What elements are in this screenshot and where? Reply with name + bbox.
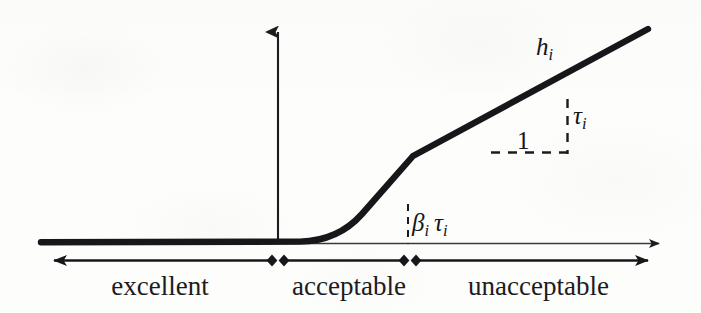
range-label-acceptable: acceptable (284, 273, 414, 300)
slope-run-label: 1 (517, 128, 530, 153)
range-label-excellent: excellent (44, 273, 276, 300)
figure-canvas: hi τi 1 βi τi excellent acceptable unacc… (0, 0, 701, 313)
slope-rise-label-base: τ (573, 102, 582, 129)
threshold-label: βi τi (412, 210, 448, 239)
range-cap-diamond-excellent-right (267, 254, 278, 266)
curve-label-h: hi (536, 34, 553, 63)
range-label-unacceptable: unacceptable (416, 273, 661, 300)
penalty-function-diagram (0, 0, 701, 313)
curve-label-h-base: h (536, 33, 549, 60)
curve-label-h-subscript: i (549, 45, 554, 64)
slope-rise-label-subscript: i (582, 114, 587, 133)
threshold-label-tau: τ (434, 209, 443, 236)
range-cap-diamond-acceptable-left (279, 254, 290, 266)
threshold-label-tau-subscript: i (443, 221, 448, 240)
slope-rise-label: τi (573, 103, 587, 132)
penalty-curve (41, 29, 648, 242)
threshold-label-beta: β (412, 209, 424, 236)
range-cap-diamond-acceptable-right (399, 254, 410, 266)
range-cap-diamond-unacceptable-left (411, 254, 422, 266)
